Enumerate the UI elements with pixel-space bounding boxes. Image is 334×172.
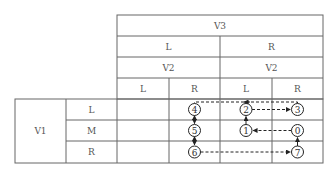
row-group-v1-label: V1 (33, 126, 46, 136)
node-label: 7 (295, 148, 301, 158)
row-v1-value: R (88, 147, 95, 157)
header-v2-label: V2 (161, 63, 174, 73)
node-label: 5 (192, 126, 198, 136)
state-node-7: 7 (292, 146, 304, 158)
header-v2-value: L (140, 84, 146, 94)
state-node-3: 3 (292, 104, 304, 116)
row-v1-value: M (87, 126, 96, 136)
header-v2-label: V2 (264, 63, 277, 73)
node-label: 1 (243, 126, 249, 136)
table-grid (15, 15, 323, 163)
state-node-2: 2 (240, 104, 252, 116)
node-label: 4 (192, 105, 198, 115)
node-label: 2 (243, 105, 249, 115)
table-labels: V3LRV2V2LRLRV1LMR (33, 21, 301, 158)
header-v3-value: R (268, 42, 275, 52)
state-node-1: 1 (240, 125, 252, 137)
node-label: 3 (295, 105, 301, 115)
header-v2-value: R (191, 84, 198, 94)
node-label: 0 (295, 126, 301, 136)
transition-table-diagram: V3LRV2V2LRLRV1LMR 01234567 (0, 0, 334, 172)
header-v3-value: L (166, 42, 172, 52)
state-node-5: 5 (189, 125, 201, 137)
row-v1-value: L (89, 105, 95, 115)
state-node-4: 4 (189, 104, 201, 116)
state-node-0: 0 (292, 125, 304, 137)
header-v2-value: R (294, 84, 301, 94)
state-node-6: 6 (189, 146, 201, 158)
header-v2-value: L (243, 84, 249, 94)
node-label: 6 (192, 148, 198, 158)
header-v3-label: V3 (213, 21, 226, 31)
